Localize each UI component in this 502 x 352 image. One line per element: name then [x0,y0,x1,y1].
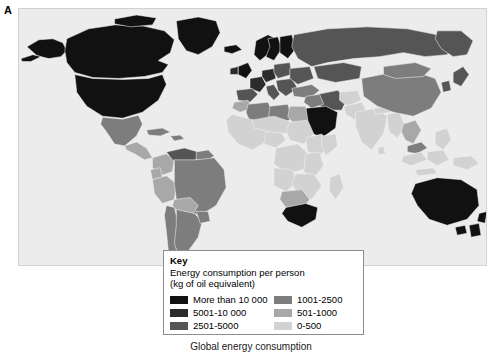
legend-column-left: More than 10 000 5001-10 000 2501-5000 [170,293,274,332]
legend-item-label: 2501-5000 [193,321,238,331]
legend-item: 0-500 [274,319,342,332]
legend-swatch-columns: More than 10 000 5001-10 000 2501-5000 1… [170,293,363,332]
legend-swatch-icon [274,296,292,304]
country-korea [441,80,451,92]
legend-item: More than 10 000 [170,293,274,306]
legend-subtitle-line-2: (kg of oil equivalent) [170,278,363,289]
legend-swatch-icon [170,296,188,304]
legend-subtitle-line-1: Energy consumption per person [170,267,363,278]
legend-item-label: 1001-2500 [297,295,342,305]
figure-caption: Global energy consumption [0,341,502,352]
legend-item: 5001-10 000 [170,306,274,319]
figure-letter-label: A [4,5,12,16]
country-canada [65,25,175,79]
legend-item: 501-1000 [274,306,342,319]
world-map-frame [18,8,487,266]
legend-item-label: 501-1000 [297,308,337,318]
legend-column-right: 1001-2500 501-1000 0-500 [274,293,342,332]
legend-item-label: 5001-10 000 [193,308,246,318]
legend-swatch-icon [170,309,188,317]
country-tasmania [455,225,467,235]
legend-swatch-icon [274,322,292,330]
legend-item-label: 0-500 [297,321,321,331]
legend-item-label: More than 10 000 [193,295,267,305]
map-legend: Key Energy consumption per person (kg of… [163,250,364,335]
legend-title: Key [170,255,363,266]
legend-swatch-icon [274,309,292,317]
legend-swatch-icon [170,322,188,330]
world-map [19,9,486,265]
legend-item: 2501-5000 [170,319,274,332]
legend-item: 1001-2500 [274,293,342,306]
country-new-zealand-south-island [469,223,481,237]
